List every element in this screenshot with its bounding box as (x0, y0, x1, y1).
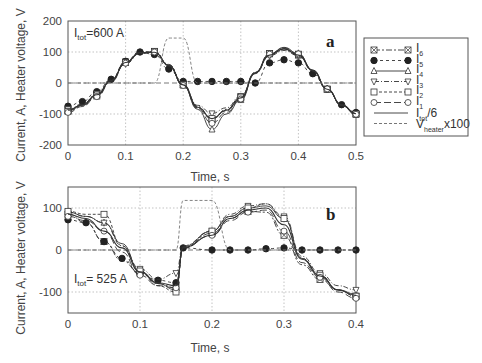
chart-a: 200 100 0 -100 -200 0 0.1 0.2 0.3 0.4 0.… (14, 8, 364, 184)
marker-filled-circle-icon (119, 255, 125, 261)
svg-text:0.1: 0.1 (132, 318, 148, 330)
marker-filled-circle-icon (266, 60, 272, 66)
svg-text:0: 0 (56, 77, 62, 89)
marker-filled-circle-icon (238, 78, 244, 84)
marker-square-icon (101, 211, 107, 217)
svg-text:0.2: 0.2 (204, 318, 220, 330)
svg-text:0.1: 0.1 (118, 150, 134, 162)
marker-filled-circle-icon (263, 246, 269, 252)
marker-circle-icon (281, 228, 287, 234)
svg-text:0: 0 (65, 318, 71, 330)
svg-text:0.3: 0.3 (276, 318, 292, 330)
svg-text:-100: -100 (39, 108, 62, 120)
svg-text:0.3: 0.3 (233, 150, 249, 162)
figure: 200 100 0 -100 -200 0 0.1 0.2 0.3 0.4 0.… (0, 0, 482, 363)
x-axis-label-a: Time, s (191, 170, 230, 184)
marker-square-icon (281, 216, 287, 222)
y-ticks-b: 100 0 -100 (39, 202, 62, 298)
marker-filled-circle-icon (101, 238, 107, 244)
marker-circle-icon (353, 111, 359, 117)
marker-filled-circle-icon (209, 247, 215, 253)
marker-square-icon (371, 89, 377, 95)
svg-text:200: 200 (43, 15, 62, 27)
svg-text:0.2: 0.2 (175, 150, 191, 162)
marker-triangle-down-icon (353, 287, 359, 293)
marker-filled-circle-icon (223, 78, 229, 84)
marker-circle-icon (209, 120, 215, 126)
y-axis-label-a: Current, A, Heater voltage, V (14, 8, 28, 161)
x-ticks-a: 0 0.1 0.2 0.3 0.4 0.5 (65, 150, 364, 162)
annotation-a: Itot=600 A (74, 26, 124, 42)
marker-circle-icon (405, 100, 411, 106)
chart-b: 100 0 -100 0 0.1 0.2 0.3 0.4 Time, s Cur… (14, 181, 365, 355)
svg-text:0: 0 (65, 150, 71, 162)
svg-text:-200: -200 (39, 139, 62, 151)
svg-text:0.5: 0.5 (348, 150, 364, 162)
svg-text:0.4: 0.4 (290, 150, 307, 162)
marker-circle-icon (353, 295, 359, 301)
x-ticks-b: 0 0.1 0.2 0.3 0.4 (65, 318, 365, 330)
panel-label-b: b (326, 205, 335, 224)
marker-circle-icon (371, 100, 377, 106)
marker-square-icon (405, 89, 411, 95)
y-axis-label-b: Current, A, Heater voltage, V (14, 181, 28, 334)
marker-circle-icon (137, 272, 143, 278)
marker-filled-circle-icon (405, 57, 411, 63)
panel-label-a: a (326, 32, 335, 51)
svg-text:100: 100 (43, 202, 62, 214)
marker-filled-circle-icon (281, 57, 287, 63)
svg-text:100: 100 (43, 46, 62, 58)
marker-filled-circle-icon (295, 60, 301, 66)
marker-filled-circle-icon (371, 57, 377, 63)
svg-text:0: 0 (56, 244, 62, 256)
legend: I6I5I4I3I2I1Itot/6Vheaterx100 (364, 38, 470, 136)
svg-text:0.4: 0.4 (348, 318, 365, 330)
marker-filled-circle-icon (209, 78, 215, 84)
svg-text:-100: -100 (39, 286, 62, 298)
annotation-b: Itot= 525 A (74, 272, 127, 288)
y-ticks-a: 200 100 0 -100 -200 (39, 15, 62, 151)
x-axis-label-b: Time, s (191, 341, 230, 355)
